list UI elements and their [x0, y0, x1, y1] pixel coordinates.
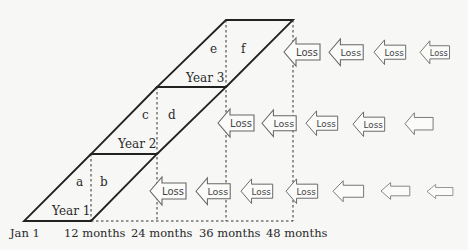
blank-arrow-icon — [405, 113, 433, 135]
loss-arrow-icon: Loss — [353, 112, 385, 137]
svg-text:Loss: Loss — [252, 187, 272, 197]
region-d: d — [168, 108, 176, 122]
svg-text:Loss: Loss — [340, 47, 361, 58]
svg-text:Loss: Loss — [230, 118, 252, 129]
axis-label-12-months: 12 months — [64, 226, 126, 240]
svg-text:Loss: Loss — [364, 120, 384, 130]
svg-text:Loss: Loss — [297, 187, 317, 197]
loss-arrow-icon: Loss — [196, 178, 230, 205]
loss-development-diagram: a b c d e f Year 1 Year 2 Year 3 Jan 1 1… — [0, 0, 468, 250]
loss-arrow-row-year1: Loss Loss Loss Loss — [150, 177, 453, 205]
loss-arrow-icon: Loss — [284, 38, 320, 66]
loss-arrow-icon: Loss — [150, 177, 186, 205]
loss-arrow-icon: Loss — [262, 110, 296, 137]
loss-arrow-row-year3: Loss Loss Loss Loss — [284, 38, 450, 66]
loss-arrow-row-year2: Loss Loss Loss Loss — [218, 109, 433, 137]
svg-text:Loss: Loss — [296, 47, 318, 58]
year-1-label: Year 1 — [51, 204, 90, 218]
loss-arrow-icon: Loss — [286, 179, 318, 204]
svg-text:Loss: Loss — [385, 48, 405, 58]
loss-arrow-icon: Loss — [218, 109, 254, 137]
blank-arrow-icon — [333, 181, 364, 202]
loss-arrow-icon: Loss — [374, 40, 406, 65]
loss-arrow-icon: Loss — [241, 179, 273, 204]
loss-arrow-icon: Loss — [329, 39, 363, 66]
region-b: b — [100, 175, 108, 189]
year-2-label: Year 2 — [117, 137, 156, 151]
year-3-parallelogram — [157, 20, 293, 87]
loss-arrow-icon: Loss — [420, 41, 450, 64]
region-e: e — [210, 42, 217, 56]
blank-arrow-icon — [381, 183, 410, 200]
axis-label-36-months: 36 months — [199, 226, 261, 240]
svg-text:Loss: Loss — [317, 119, 337, 129]
axis-label-24-months: 24 months — [131, 226, 193, 240]
svg-text:Loss: Loss — [273, 118, 294, 129]
year-3-label: Year 3 — [185, 71, 224, 85]
axis-label-jan1: Jan 1 — [9, 226, 40, 240]
loss-arrow-icon: Loss — [306, 111, 338, 136]
svg-text:Loss: Loss — [207, 186, 228, 197]
year-2-parallelogram — [91, 87, 226, 154]
region-c: c — [142, 108, 149, 122]
svg-text:Loss: Loss — [162, 186, 184, 197]
region-f: f — [241, 42, 247, 56]
svg-text:Loss: Loss — [430, 48, 448, 58]
region-a: a — [76, 175, 83, 189]
axis-label-48-months: 48 months — [266, 226, 328, 240]
blank-arrow-icon — [427, 185, 453, 199]
